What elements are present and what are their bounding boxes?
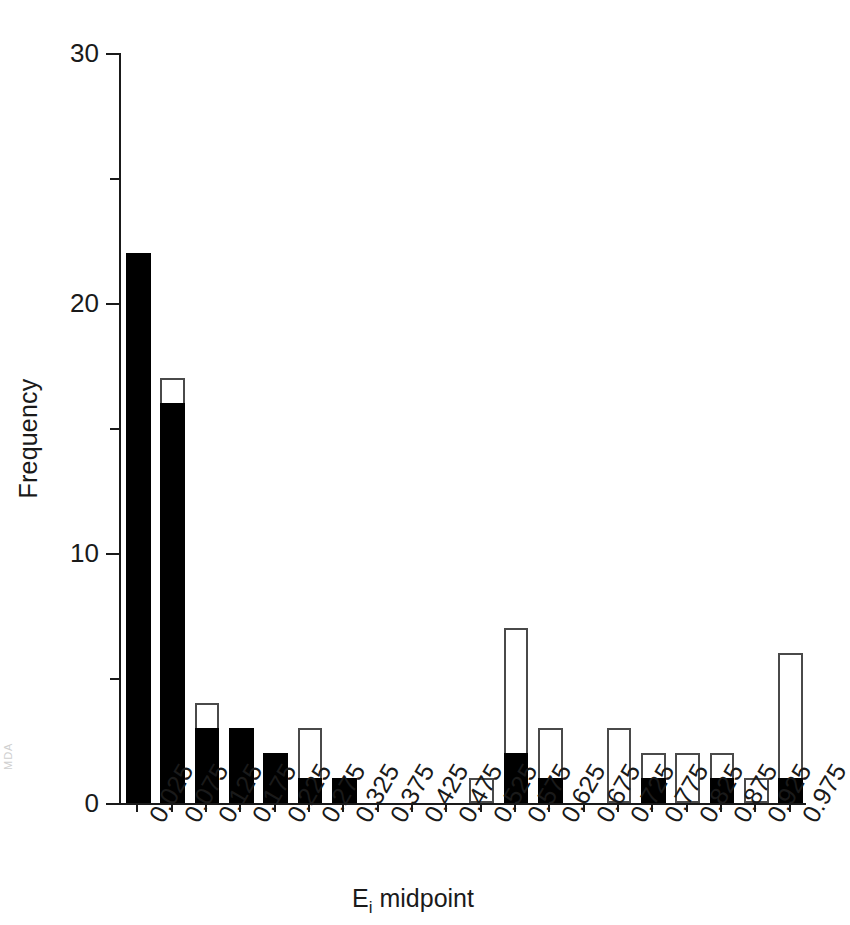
y-tick-mark: [106, 53, 119, 55]
bar-filled-segment: [126, 253, 151, 803]
bar-0.275[interactable]: [298, 53, 323, 803]
x-tick-mark: [377, 803, 379, 812]
bar-0.675[interactable]: [572, 53, 597, 803]
bar-0.125[interactable]: [195, 53, 220, 803]
bar-0.325[interactable]: [332, 53, 357, 803]
x-tick-mark: [411, 803, 413, 812]
scan-margin-artifact: MDA: [2, 754, 14, 770]
bar-0.075[interactable]: [160, 53, 185, 803]
y-tick-label: 20: [70, 288, 99, 319]
y-tick-label: 30: [70, 38, 99, 69]
y-tick-mark: [106, 553, 119, 555]
x-tick-mark: [754, 803, 756, 812]
x-tick-mark: [651, 803, 653, 812]
x-tick-mark: [480, 803, 482, 812]
x-axis-title-base: E: [352, 884, 369, 912]
bar-0.725[interactable]: [607, 53, 632, 803]
bar-0.875[interactable]: [710, 53, 735, 803]
y-minor-tick-5: [110, 678, 119, 680]
y-tick-label: 10: [70, 538, 99, 569]
y-tick-label: 0: [85, 788, 99, 819]
bar-0.375[interactable]: [366, 53, 391, 803]
x-tick-mark: [274, 803, 276, 812]
plot-area: 0102030 0.0250.0750.1250.1750.2250.2750.…: [119, 53, 806, 803]
x-tick-mark: [445, 803, 447, 812]
bar-0.575[interactable]: [504, 53, 529, 803]
x-tick-mark: [205, 803, 207, 812]
x-tick-mark: [548, 803, 550, 812]
bar-0.425[interactable]: [401, 53, 426, 803]
bar-filled-segment: [160, 403, 185, 803]
bar-0.775[interactable]: [641, 53, 666, 803]
y-axis-title: Frequency: [14, 339, 43, 539]
bar-0.475[interactable]: [435, 53, 460, 803]
bar-0.175[interactable]: [229, 53, 254, 803]
x-tick-mark: [514, 803, 516, 812]
y-minor-tick-25: [110, 178, 119, 180]
y-minor-tick-15: [110, 428, 119, 430]
x-tick-mark: [720, 803, 722, 812]
x-tick-mark: [789, 803, 791, 812]
y-tick-mark: [106, 803, 119, 805]
bar-0.825[interactable]: [675, 53, 700, 803]
x-tick-mark: [342, 803, 344, 812]
x-axis-title: Ei midpoint: [0, 884, 826, 918]
y-axis-line: [119, 53, 121, 804]
x-tick-mark: [308, 803, 310, 812]
x-tick-mark: [686, 803, 688, 812]
x-tick-mark: [617, 803, 619, 812]
bar-0.225[interactable]: [263, 53, 288, 803]
bar-0.975[interactable]: [778, 53, 803, 803]
y-tick-mark: [106, 303, 119, 305]
bar-0.525[interactable]: [469, 53, 494, 803]
bar-0.025[interactable]: [126, 53, 151, 803]
bar-0.925[interactable]: [744, 53, 769, 803]
x-axis-title-rest: midpoint: [373, 884, 474, 912]
x-tick-mark: [239, 803, 241, 812]
x-tick-mark: [171, 803, 173, 812]
x-tick-mark: [583, 803, 585, 812]
x-tick-mark: [136, 803, 138, 812]
bar-0.625[interactable]: [538, 53, 563, 803]
